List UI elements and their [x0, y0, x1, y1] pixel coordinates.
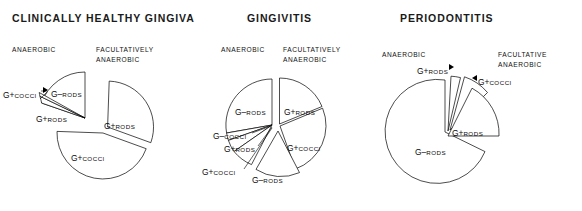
slice-label-text: RODS: [428, 68, 448, 75]
slice-label-prefix: G+: [284, 107, 295, 117]
slice-label-prefix: G+: [3, 90, 14, 100]
slice-label-text: COCCI: [213, 169, 235, 176]
pie-svg-healthy-gingiva: [0, 0, 196, 211]
slice-label-g-plus-cocci-facultative: G+COCCI: [287, 138, 321, 154]
slice-label-g-minus-rods-facultative: G–RODS: [252, 170, 283, 186]
slice-g-plus-rods-facultative: [108, 81, 154, 143]
slice-label-prefix: G–: [235, 107, 246, 117]
slice-label-prefix: G–: [415, 147, 426, 157]
slice-label-text: RODS: [47, 116, 67, 123]
slice-label-text: RODS: [295, 109, 315, 116]
slice-label-g-plus-rods-facultative: G+RODS: [284, 102, 315, 118]
slice-label-prefix: G+: [478, 77, 489, 87]
slice-label-prefix: G–: [252, 175, 263, 185]
slice-label-text: COCCI: [489, 79, 511, 86]
slice-label-text: COCCI: [82, 155, 104, 162]
slice-label-g-minus-rods-anaerobic: G–RODS: [235, 102, 266, 118]
slice-label-prefix: G+: [36, 114, 47, 124]
slice-label-g-plus-cocci-exploded: G+COCCI: [3, 85, 37, 101]
slice-label-prefix: G–: [213, 131, 224, 141]
slice-label-text: RODS: [235, 146, 255, 153]
slice-label-prefix: G+: [287, 143, 298, 153]
slice-label-text: COCCI: [14, 92, 36, 99]
slice-label-text: RODS: [246, 109, 266, 116]
slice-label-text: RODS: [115, 123, 135, 130]
slice-label-g-plus-cocci-facultative: G+COCCI: [478, 72, 512, 88]
slice-label-g-plus-rods-facultative: G+RODS: [452, 123, 483, 139]
slice-label-g-minus-rods-anaerobic: G–RODS: [415, 142, 446, 158]
slice-label-text: RODS: [263, 177, 283, 184]
slice-label-g-plus-cocci-facultative: G+COCCI: [71, 148, 105, 164]
slice-label-prefix: G+: [224, 144, 235, 154]
slice-label-text: RODS: [62, 91, 82, 98]
slice-label-text: RODS: [426, 149, 446, 156]
chart-panel-periodontitis: PERIODONTITIS ANAEROBIC FACULTATIVE ANAE…: [382, 0, 582, 211]
slice-label-prefix: G+: [452, 128, 463, 138]
slice-label-prefix: G+: [202, 167, 213, 177]
arrow-g-plus-rods-anaerobic: [449, 64, 454, 70]
arrow-g-plus-cocci-facultative: [472, 75, 477, 81]
slice-label-text: COCCI: [298, 145, 320, 152]
slice-label-g-plus-rods-facultative: G+RODS: [104, 116, 135, 132]
chart-panel-healthy-gingiva: CLINICALLY HEALTHY GINGIVA ANAEROBIC FAC…: [0, 0, 196, 211]
slice-label-text: RODS: [463, 130, 483, 137]
slice-label-prefix: G+: [71, 153, 82, 163]
pie-svg-periodontitis: [382, 0, 582, 211]
slice-label-g-minus-rods: G–RODS: [51, 84, 82, 100]
arrow-g-plus-cocci-exploded: [43, 87, 48, 93]
slice-label-g-plus-rods-anaerobic: G+RODS: [224, 139, 255, 155]
chart-panel-gingivitis: GINGIVITIS ANAEROBIC FACULTATIVELY ANAER…: [196, 0, 382, 211]
slice-label-prefix: G–: [51, 89, 62, 99]
slice-label-prefix: G+: [104, 121, 115, 131]
slice-label-prefix: G+: [417, 66, 428, 76]
slice-label-g-plus-rods-anaerobic: G+RODS: [417, 61, 448, 77]
slice-label-g-plus-cocci-anaerobic: G+COCCI: [202, 162, 236, 178]
slice-label-g-plus-rods-anaerobic: G+RODS: [36, 109, 67, 125]
